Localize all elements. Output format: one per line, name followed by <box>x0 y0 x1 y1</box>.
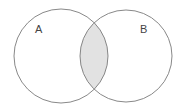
set-b-label: B <box>140 23 147 35</box>
intersection-region <box>80 10 172 102</box>
venn-diagram: A B <box>0 0 176 110</box>
set-a-label: A <box>35 23 43 35</box>
